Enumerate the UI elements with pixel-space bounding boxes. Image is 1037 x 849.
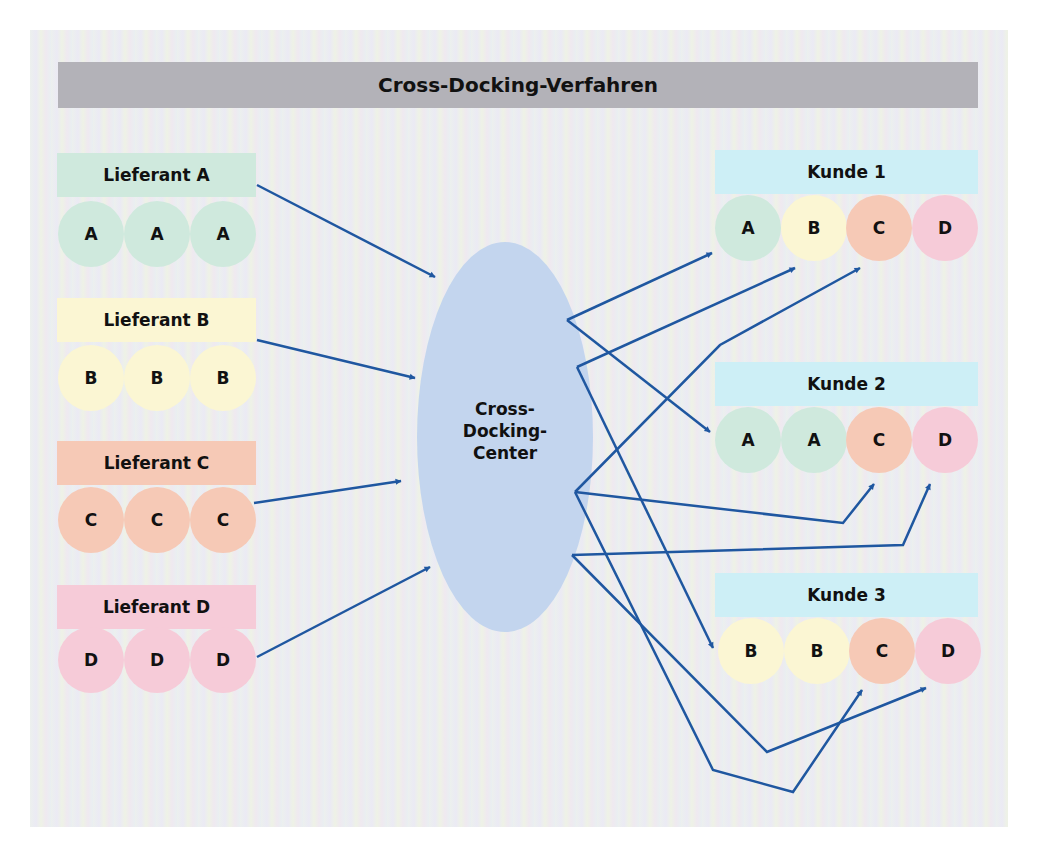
arrow-b-to-kunde3 (577, 367, 713, 648)
center-label-line: Center (440, 442, 570, 464)
arrow-supplier-c (254, 481, 401, 503)
center-label-line: Docking- (440, 420, 570, 442)
arrow-supplier-a (257, 185, 435, 277)
arrow-c-to-kunde1 (575, 268, 860, 492)
arrow-a-to-kunde1 (567, 253, 712, 320)
arrow-supplier-b (257, 340, 415, 378)
arrow-c-to-kunde3 (575, 492, 862, 792)
arrow-b-to-kunde1 (577, 268, 795, 367)
cross-docking-center-label: Cross- Docking- Center (440, 398, 570, 464)
arrow-d-to-kunde3 (572, 555, 926, 752)
arrow-d-to-kunde2 (572, 484, 930, 555)
arrow-c-to-kunde2 (575, 484, 874, 523)
arrow-supplier-d (257, 567, 430, 657)
center-label-line: Cross- (440, 398, 570, 420)
